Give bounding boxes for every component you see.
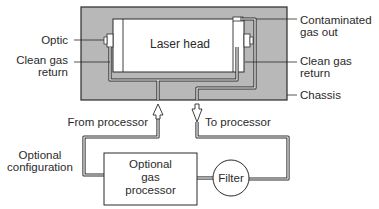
from-processor-arrow-icon bbox=[153, 104, 163, 130]
optional-configuration-label-2: configuration bbox=[2, 161, 78, 173]
chassis-label: Chassis bbox=[300, 89, 341, 101]
clean-gas-return-right-label-2: return bbox=[300, 67, 330, 79]
processor-label-3: processor bbox=[104, 184, 197, 196]
processor-label-1: Optional bbox=[104, 158, 197, 170]
left-optic bbox=[107, 34, 113, 47]
filter-label: Filter bbox=[213, 172, 249, 184]
clean-gas-return-right-label-1: Clean gas bbox=[300, 55, 352, 67]
clean-gas-return-left-label-1: Clean gas bbox=[0, 54, 68, 66]
optic-label: Optic bbox=[0, 34, 68, 46]
right-optic bbox=[244, 34, 250, 47]
contaminated-label-2: gas out bbox=[300, 26, 338, 38]
clean-gas-return-left-label-2: return bbox=[0, 66, 68, 78]
optional-configuration-label-1: Optional bbox=[2, 149, 78, 161]
to-processor-label: To processor bbox=[205, 116, 271, 128]
to-processor-arrow-icon bbox=[192, 104, 202, 122]
laser-head-label: Laser head bbox=[140, 38, 220, 50]
from-processor-label: From processor bbox=[50, 116, 148, 128]
contaminated-label-1: Contaminated bbox=[300, 14, 372, 26]
processor-label-2: gas bbox=[104, 171, 197, 183]
